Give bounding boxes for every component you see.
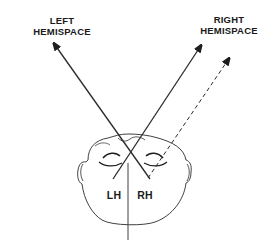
right-hemispace-dashed-arrow	[148, 60, 228, 178]
left-hemispace-arrow	[55, 45, 150, 179]
right-ear	[187, 164, 189, 181]
left-ear	[81, 164, 83, 181]
hair-left	[95, 143, 110, 146]
left-hemispace-label-line1: LEFT	[22, 15, 102, 26]
right-hemispace-label-line1: RIGHT	[190, 14, 268, 25]
left-eyebrow	[103, 153, 120, 158]
right-hemispace-label-line2: HEMISPACE	[190, 25, 268, 36]
left-eye	[99, 162, 122, 166]
right-eye	[144, 162, 167, 166]
right-hemispace-label: RIGHT HEMISPACE	[190, 14, 268, 36]
right-eyebrow	[146, 153, 163, 158]
right-hemispace-arrow	[113, 47, 200, 179]
hemispace-diagram	[0, 0, 276, 248]
left-hemispace-label-line2: HEMISPACE	[22, 26, 102, 37]
left-hemispace-label: LEFT HEMISPACE	[22, 15, 102, 37]
right-hemisphere-label: RH	[134, 190, 156, 201]
left-hemisphere-label: LH	[103, 190, 125, 201]
